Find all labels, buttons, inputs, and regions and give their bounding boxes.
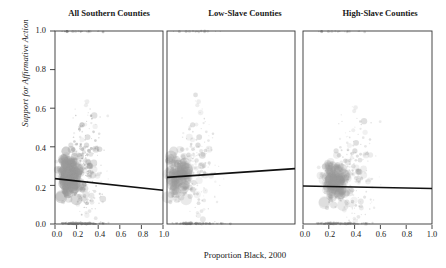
panel-2-points bbox=[162, 29, 232, 225]
panel-title-high-slave: High-Slave Counties bbox=[327, 8, 433, 18]
p3-x-tick-0-8: 0.8 bbox=[397, 231, 417, 239]
p1-x-tick-0-8: 0.8 bbox=[133, 231, 153, 239]
axes-group bbox=[50, 31, 432, 229]
p3-x-tick-0-2: 0.2 bbox=[320, 231, 340, 239]
y-axis-label: Support for Affirmative Action bbox=[20, 0, 30, 158]
p3-x-tick-0-6: 0.6 bbox=[371, 231, 391, 239]
p3-x-tick-0-4: 0.4 bbox=[346, 231, 366, 239]
p1-x-tick-0-4: 0.4 bbox=[90, 231, 110, 239]
panel-title-low-slave: Low-Slave Counties bbox=[194, 8, 296, 18]
panel-1-points bbox=[54, 30, 110, 225]
x-axis-label: Proportion Black, 2000 bbox=[150, 250, 340, 260]
p1-x-tick-0-6: 0.6 bbox=[111, 231, 131, 239]
panel-3-points bbox=[316, 30, 382, 226]
y-tick-0-2: 0.2 bbox=[20, 185, 46, 193]
y-tick-0-0: 0.0 bbox=[20, 221, 46, 229]
p1-x-tick-0-0: 0.0 bbox=[47, 231, 67, 239]
y-tick-0-4: 0.4 bbox=[20, 145, 46, 153]
p1-x-tick-1-0: 1.0 bbox=[154, 231, 174, 239]
p3-x-tick-0-0: 0.0 bbox=[295, 231, 315, 239]
plot-canvas bbox=[0, 0, 446, 268]
figure: Support for Affirmative Action Proportio… bbox=[0, 0, 446, 268]
y-tick-0-8: 0.8 bbox=[20, 66, 46, 74]
y-tick-1-0: 1.0 bbox=[20, 27, 46, 35]
fit-lines bbox=[55, 169, 432, 191]
p1-x-tick-0-2: 0.2 bbox=[68, 231, 88, 239]
panel-title-all-southern: All Southern Counties bbox=[55, 8, 163, 18]
panel-frames bbox=[55, 31, 432, 224]
y-tick-0-6: 0.6 bbox=[20, 106, 46, 114]
p3-x-tick-1-0: 1.0 bbox=[422, 231, 442, 239]
